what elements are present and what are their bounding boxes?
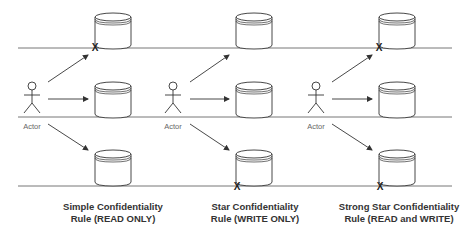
arrow-down [48, 124, 88, 150]
panel-strong-star-confidentiality: X X [308, 13, 415, 192]
confidentiality-diagram: X X X X [0, 0, 464, 230]
panel-simple-confidentiality: X [24, 13, 131, 186]
database-icon [95, 150, 131, 186]
arrow-up [332, 55, 372, 82]
actor-label: Actor [296, 122, 336, 131]
database-icon [95, 82, 131, 118]
database-icon [95, 13, 131, 49]
actor-label: Actor [12, 122, 52, 131]
arrow-up [190, 55, 229, 82]
database-icon [236, 150, 272, 186]
actor-label: Actor [153, 122, 193, 131]
block-marker-bottom: X [234, 181, 241, 192]
caption-strong-star-confidentiality: Strong Star Confidentiality Rule (READ a… [324, 201, 464, 225]
caption-line-2: Rule (READ ONLY) [38, 213, 188, 225]
actor-icon [24, 82, 40, 113]
block-marker-top: X [92, 42, 99, 53]
arrow-down [332, 124, 372, 150]
arrow-up [48, 55, 88, 82]
caption-line-1: Strong Star Confidentiality [324, 201, 464, 213]
caption-star-confidentiality: Star Confidentiality Rule (WRITE ONLY) [180, 201, 330, 225]
actor-icon [308, 82, 324, 113]
actor-icon [165, 82, 181, 113]
database-icon [379, 13, 415, 49]
database-icon [379, 82, 415, 118]
arrow-down [190, 124, 229, 150]
block-marker-top: X [376, 42, 383, 53]
caption-simple-confidentiality: Simple Confidentiality Rule (READ ONLY) [38, 201, 188, 225]
caption-line-2: Rule (READ and WRITE) [324, 213, 464, 225]
caption-line-1: Simple Confidentiality [38, 201, 188, 213]
database-icon [379, 150, 415, 186]
caption-line-1: Star Confidentiality [180, 201, 330, 213]
caption-line-2: Rule (WRITE ONLY) [180, 213, 330, 225]
database-icon [236, 82, 272, 118]
block-marker-bottom: X [377, 181, 384, 192]
database-icon [236, 13, 272, 49]
panel-star-confidentiality: X [165, 13, 272, 192]
